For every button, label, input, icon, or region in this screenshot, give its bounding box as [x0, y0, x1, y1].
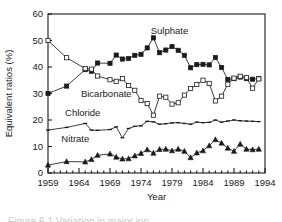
x-tick-label: 1979	[161, 177, 182, 188]
marker-filled-triangle	[138, 151, 143, 156]
x-tick-label: 1969	[99, 177, 120, 188]
y-tick-label: 10	[32, 141, 43, 152]
marker-filled-square	[127, 56, 131, 60]
marker-filled-square	[145, 46, 149, 50]
y-tick-label: 60	[32, 8, 43, 19]
marker-open-square	[176, 101, 180, 105]
marker-open-square	[244, 76, 248, 80]
y-tick-label: 20	[32, 114, 43, 125]
marker-open-square	[213, 99, 217, 103]
marker-filled-square	[164, 48, 168, 52]
marker-filled-triangle	[114, 154, 119, 159]
marker-filled-square	[170, 44, 174, 48]
marker-filled-square	[120, 57, 124, 61]
marker-filled-triangle	[213, 137, 218, 142]
marker-filled-square	[151, 36, 155, 40]
series-annotation-sulphate: Sulphate	[151, 25, 189, 36]
marker-filled-triangle	[238, 141, 243, 146]
marker-filled-triangle	[126, 156, 131, 161]
x-tick-label: 1989	[223, 177, 244, 188]
marker-open-square	[251, 86, 255, 90]
marker-open-square	[65, 56, 69, 60]
marker-filled-triangle	[145, 147, 150, 152]
y-tick-label: 30	[32, 88, 43, 99]
marker-open-square	[151, 113, 155, 117]
marker-open-square	[46, 38, 50, 42]
marker-filled-square	[46, 91, 50, 95]
marker-open-square	[238, 74, 242, 78]
series-annotation-bicarbonate: Bicarbonate	[81, 88, 132, 99]
marker-open-square	[232, 76, 236, 80]
marker-filled-square	[182, 53, 186, 57]
marker-open-square	[220, 94, 224, 98]
marker-filled-triangle	[225, 145, 230, 150]
marker-open-square	[133, 88, 137, 92]
marker-filled-square	[220, 65, 224, 69]
marker-filled-square	[96, 61, 100, 65]
marker-filled-triangle	[256, 146, 261, 151]
marker-open-square	[257, 77, 261, 81]
marker-open-square	[195, 82, 199, 86]
marker-open-square	[114, 79, 118, 83]
marker-filled-square	[251, 77, 255, 81]
marker-open-square	[83, 66, 87, 70]
marker-filled-square	[114, 53, 118, 57]
x-tick-label: 1964	[68, 177, 89, 188]
marker-filled-square	[108, 61, 112, 65]
marker-filled-triangle	[176, 146, 181, 151]
line-chart: 0102030405060195919641969197419791984198…	[0, 0, 282, 222]
marker-open-square	[182, 93, 186, 97]
y-tick-label: 50	[32, 35, 43, 46]
marker-filled-square	[176, 48, 180, 52]
marker-open-square	[164, 95, 168, 99]
marker-filled-square	[158, 51, 162, 55]
y-tick-label: 40	[32, 61, 43, 72]
marker-open-square	[226, 82, 230, 86]
x-tick-label: 1959	[37, 177, 58, 188]
marker-open-square	[145, 101, 149, 105]
marker-open-square	[189, 86, 193, 90]
marker-open-square	[108, 78, 112, 82]
x-tick-label: 1974	[130, 177, 151, 188]
marker-open-square	[201, 78, 205, 82]
x-axis-title: Year	[147, 191, 166, 202]
marker-filled-square	[189, 66, 193, 70]
y-axis-title: Equivalent ratios (%)	[3, 50, 14, 138]
marker-filled-square	[133, 53, 137, 57]
figure-caption-clipped: Figure 6.1 Variation in major ion	[8, 216, 208, 222]
series-annotation-nitrate: Nitrate	[61, 133, 89, 144]
marker-open-square	[139, 98, 143, 102]
marker-open-square	[89, 67, 93, 71]
marker-filled-square	[201, 62, 205, 66]
marker-open-square	[120, 77, 124, 81]
x-tick-label: 1994	[254, 177, 275, 188]
marker-filled-triangle	[219, 140, 224, 145]
marker-filled-square	[207, 63, 211, 67]
marker-filled-square	[213, 55, 217, 59]
marker-open-square	[127, 83, 131, 87]
marker-open-square	[170, 102, 174, 106]
marker-filled-triangle	[107, 151, 112, 156]
marker-filled-square	[65, 84, 69, 88]
marker-open-square	[207, 81, 211, 85]
marker-filled-square	[139, 52, 143, 56]
marker-filled-triangle	[244, 146, 249, 151]
marker-filled-triangle	[200, 148, 205, 153]
marker-filled-triangle	[163, 146, 168, 151]
series-annotation-chloride: Chloride	[65, 107, 100, 118]
figure-container: 0102030405060195919641969197419791984198…	[0, 0, 282, 222]
marker-open-square	[158, 94, 162, 98]
marker-filled-triangle	[89, 157, 94, 162]
marker-filled-square	[226, 77, 230, 81]
marker-filled-triangle	[151, 150, 156, 155]
marker-open-square	[96, 74, 100, 78]
marker-filled-square	[195, 63, 199, 67]
x-tick-label: 1984	[192, 177, 213, 188]
